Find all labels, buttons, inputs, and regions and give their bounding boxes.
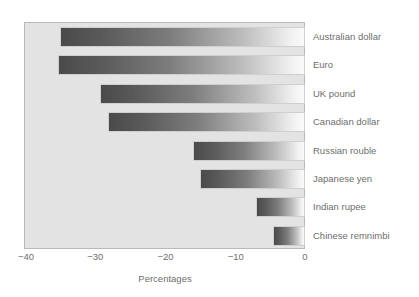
category-label-uk-pound: UK pound bbox=[313, 89, 355, 99]
bar-chinese-remnimbi bbox=[273, 226, 305, 246]
bar-canadian-dollar bbox=[108, 112, 305, 132]
bar-russian-rouble bbox=[193, 141, 305, 161]
bar-japanese-yen bbox=[200, 169, 305, 189]
x-tick-label-minus30: −30 bbox=[87, 252, 103, 262]
category-label-australian-dollar: Australian dollar bbox=[313, 32, 381, 42]
category-label-indian-rupee: Indian rupee bbox=[313, 202, 366, 212]
bar-row bbox=[25, 165, 304, 193]
bar-row bbox=[25, 51, 304, 79]
bar-row bbox=[25, 193, 304, 221]
bar-euro bbox=[58, 55, 305, 75]
category-label-euro: Euro bbox=[313, 60, 333, 70]
bar-row bbox=[25, 137, 304, 165]
category-label-japanese-yen: Japanese yen bbox=[313, 174, 372, 184]
bar-australian-dollar bbox=[60, 27, 305, 47]
x-tick-label-zero: 0 bbox=[302, 252, 307, 262]
x-tick-label-minus10: −10 bbox=[228, 252, 244, 262]
bar-row bbox=[25, 80, 304, 108]
plot-area bbox=[24, 22, 305, 249]
bar-chart: Australian dollar Euro UK pound Canadian… bbox=[0, 0, 419, 297]
bar-row bbox=[25, 222, 304, 250]
category-label-chinese-remnimbi: Chinese remnimbi bbox=[313, 231, 390, 241]
category-label-russian-rouble: Russian rouble bbox=[313, 146, 376, 156]
bar-row bbox=[25, 108, 304, 136]
x-tick-label-minus20: −20 bbox=[157, 252, 173, 262]
bar-indian-rupee bbox=[256, 197, 305, 217]
bar-uk-pound bbox=[100, 84, 305, 104]
x-axis-title: Percentages bbox=[0, 274, 330, 284]
x-tick-label-minus40: −40 bbox=[18, 252, 34, 262]
bar-row bbox=[25, 23, 304, 51]
category-label-canadian-dollar: Canadian dollar bbox=[313, 117, 380, 127]
